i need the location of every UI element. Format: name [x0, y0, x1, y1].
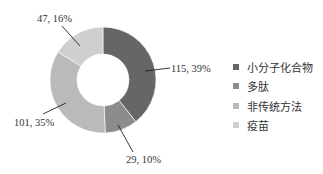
- leader-line-peptide: [118, 125, 133, 152]
- legend-label: 疫苗: [247, 117, 269, 133]
- legend-swatch-icon: [233, 122, 239, 128]
- legend-item-vaccine: 疫苗: [233, 116, 313, 136]
- legend-swatch-icon: [233, 83, 239, 89]
- donut-slices: [50, 27, 156, 133]
- legend-item-peptide: 多肽: [233, 77, 313, 97]
- legend: 小分子化合物 多肽 非传统方法 疫苗: [233, 57, 313, 135]
- legend-item-non-traditional: 非传统方法: [233, 96, 313, 116]
- legend-swatch-icon: [233, 64, 239, 70]
- legend-swatch-icon: [233, 103, 239, 109]
- data-label-vaccine: 47, 16%: [37, 13, 72, 24]
- legend-label: 多肽: [247, 78, 269, 94]
- data-label-peptide: 29, 10%: [126, 154, 161, 165]
- data-label-small-molecule: 115, 39%: [171, 63, 211, 74]
- legend-label: 非传统方法: [247, 98, 302, 114]
- legend-label: 小分子化合物: [247, 59, 313, 75]
- data-label-non-traditional: 101, 35%: [14, 117, 55, 128]
- legend-item-small-molecule: 小分子化合物: [233, 57, 313, 77]
